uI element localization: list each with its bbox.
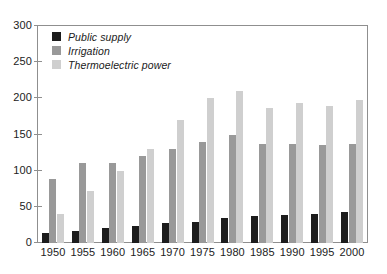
bar-group bbox=[251, 26, 273, 243]
legend-swatch-icon bbox=[52, 60, 61, 69]
bar bbox=[72, 231, 79, 243]
legend-label: Thermoelectric power bbox=[68, 59, 171, 71]
chart-legend: Public supplyIrrigationThermoelectric po… bbox=[52, 30, 222, 72]
bar bbox=[221, 218, 228, 243]
y-tick-label: 0 bbox=[26, 236, 32, 248]
bar bbox=[236, 91, 243, 243]
bar bbox=[79, 163, 86, 243]
bar bbox=[49, 179, 56, 243]
legend-label: Irrigation bbox=[68, 45, 110, 57]
bar-group bbox=[281, 26, 303, 243]
bar bbox=[251, 216, 258, 243]
bar bbox=[199, 142, 206, 243]
x-tick-label: 1965 bbox=[130, 246, 155, 258]
bar bbox=[109, 163, 116, 243]
x-tick-label: 1970 bbox=[160, 246, 185, 258]
bar bbox=[162, 223, 169, 243]
bar bbox=[341, 212, 348, 243]
x-axis: 1950195519601965197019751980198519901995… bbox=[38, 246, 367, 266]
x-tick-label: 1950 bbox=[41, 246, 66, 258]
bar bbox=[326, 106, 333, 243]
y-tick-label: 250 bbox=[13, 55, 32, 67]
bar-group bbox=[221, 26, 243, 243]
x-tick-label: 1995 bbox=[310, 246, 335, 258]
y-tick-label: 150 bbox=[13, 128, 32, 140]
bar bbox=[289, 144, 296, 243]
bar bbox=[102, 228, 109, 243]
bar bbox=[87, 191, 94, 243]
bar bbox=[259, 144, 266, 243]
bar bbox=[281, 215, 288, 243]
x-tick-label: 1955 bbox=[70, 246, 95, 258]
x-tick-label: 1975 bbox=[190, 246, 215, 258]
bar bbox=[207, 98, 214, 243]
bar bbox=[169, 149, 176, 243]
legend-item: Public supply bbox=[52, 30, 222, 43]
bar-chart: 050100150200250300 195019551960196519701… bbox=[0, 0, 387, 274]
bar bbox=[266, 108, 273, 243]
bar bbox=[139, 156, 146, 243]
y-tick-label: 200 bbox=[13, 91, 32, 103]
bar bbox=[296, 103, 303, 243]
y-tick-label: 50 bbox=[20, 200, 32, 212]
bar-group bbox=[311, 26, 333, 243]
bar bbox=[319, 145, 326, 243]
x-tick-label: 1990 bbox=[280, 246, 305, 258]
x-tick-label: 1985 bbox=[250, 246, 275, 258]
bar bbox=[57, 214, 64, 243]
bar bbox=[42, 233, 49, 243]
bar bbox=[229, 135, 236, 244]
legend-label: Public supply bbox=[68, 31, 131, 43]
y-tick-label: 300 bbox=[13, 19, 32, 31]
bar bbox=[349, 144, 356, 243]
bar bbox=[311, 214, 318, 243]
bar-group bbox=[341, 26, 363, 243]
x-tick-label: 1980 bbox=[220, 246, 245, 258]
y-tick-label: 100 bbox=[13, 164, 32, 176]
bar bbox=[177, 120, 184, 243]
bar bbox=[192, 222, 199, 243]
bar bbox=[147, 149, 154, 243]
y-axis: 050100150200250300 bbox=[0, 25, 32, 243]
x-tick-label: 1960 bbox=[100, 246, 125, 258]
bar bbox=[356, 100, 363, 243]
legend-item: Irrigation bbox=[52, 44, 222, 57]
legend-swatch-icon bbox=[52, 32, 61, 41]
legend-swatch-icon bbox=[52, 46, 61, 55]
legend-item: Thermoelectric power bbox=[52, 58, 222, 71]
bar bbox=[117, 171, 124, 243]
bar bbox=[132, 226, 139, 243]
x-tick-label: 2000 bbox=[340, 246, 365, 258]
